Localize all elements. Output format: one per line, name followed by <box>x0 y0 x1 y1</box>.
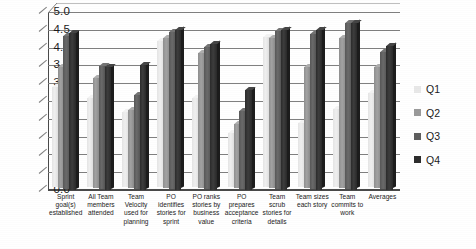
bar-face <box>69 33 76 190</box>
x-axis-label-line: Team <box>119 193 152 201</box>
x-axis-label-line: established <box>49 209 82 217</box>
legend-label: Q2 <box>426 108 440 119</box>
bar-side <box>76 30 79 188</box>
bar-q4 <box>175 30 182 190</box>
x-axis-label-line: PO ranks <box>190 193 223 201</box>
x-axis-label-line: Team sizes <box>296 193 329 201</box>
x-axis-label-line: Sprint <box>49 193 82 201</box>
bar-group <box>83 12 118 190</box>
x-axis-label-line: sprint <box>155 218 188 226</box>
bar-group <box>154 12 189 190</box>
x-axis-label-line: goal(s) <box>49 201 82 209</box>
x-axis-label-line: planning <box>119 218 152 226</box>
x-axis-label-line: acceptance <box>225 209 259 217</box>
bar-groups <box>48 12 400 190</box>
bar-face <box>281 30 288 190</box>
bar-face <box>386 46 393 190</box>
x-axis-label: TeamVelocityused forplanning <box>118 193 153 226</box>
x-axis-label: Averages <box>365 193 400 226</box>
bar-side <box>393 43 396 189</box>
bar-q4 <box>386 46 393 190</box>
bar-side <box>111 64 114 188</box>
bar-q4 <box>140 65 147 190</box>
x-axis-label-line: Team <box>331 193 364 201</box>
x-axis-label-line: criteria <box>225 218 259 226</box>
x-axis-label: POidentifiesstories forsprint <box>154 193 189 226</box>
x-axis-label-line: work <box>331 209 364 217</box>
bar-face <box>316 30 323 190</box>
legend-label: Q4 <box>426 155 440 166</box>
bar-cluster <box>298 12 324 190</box>
bar-q4 <box>105 67 112 190</box>
bar-group <box>365 12 400 190</box>
bar-side <box>287 27 290 189</box>
bar-cluster <box>228 12 254 190</box>
legend-item-q3[interactable]: Q3 <box>414 131 440 142</box>
bar-cluster <box>157 12 183 190</box>
x-axis-label: All Teammembersattended <box>83 193 118 226</box>
legend-item-q2[interactable]: Q2 <box>414 108 440 119</box>
bar-cluster <box>192 12 218 190</box>
x-axis-label: Sprintgoal(s)established <box>48 193 83 226</box>
x-axis-label-line: identifies <box>155 201 188 209</box>
gridline <box>48 190 400 191</box>
x-axis-labels: Sprintgoal(s)establishedAll Teammembersa… <box>48 193 400 226</box>
bar-group <box>118 12 153 190</box>
x-axis-label-line: PO prepares <box>225 193 259 209</box>
bar-q4 <box>210 44 217 190</box>
bar-q4 <box>351 23 358 190</box>
x-axis-label-line: used for <box>119 209 152 217</box>
x-axis-label-line: commits to <box>331 201 364 209</box>
bar-q4 <box>316 30 323 190</box>
legend-swatch-icon <box>414 133 421 140</box>
legend-label: Q1 <box>426 84 440 95</box>
bar-group <box>48 12 83 190</box>
bar-q4 <box>281 30 288 190</box>
x-axis-label: Team sizeseach story <box>295 193 330 226</box>
chart-depth-edge <box>48 3 400 12</box>
legend-swatch-icon <box>414 109 421 116</box>
bar-cluster <box>368 12 394 190</box>
bar-face <box>105 67 112 190</box>
bar-chart: 5.04.54.03.53.02.52.01.51.00.50.0 Sprint… <box>0 0 476 249</box>
x-axis-label-line: stories for <box>261 209 294 217</box>
bar-cluster <box>122 12 148 190</box>
x-axis-label-line: Team scrub <box>261 193 294 209</box>
x-axis-label-line: PO <box>155 193 188 201</box>
x-axis-label-line: business <box>190 209 223 217</box>
x-axis-label-line: each story <box>296 201 329 209</box>
legend-item-q4[interactable]: Q4 <box>414 155 440 166</box>
chart-legend: Q1Q2Q3Q4 <box>414 84 440 165</box>
legend-label: Q3 <box>426 131 440 142</box>
legend-item-q1[interactable]: Q1 <box>414 84 440 95</box>
bar-face <box>351 23 358 190</box>
bar-side <box>252 87 255 188</box>
bar-face <box>175 30 182 190</box>
x-axis-label-line: attended <box>84 209 117 217</box>
x-axis-label-line: All Team <box>84 193 117 201</box>
x-axis-label-line: members <box>84 201 117 209</box>
x-axis-label-line: details <box>261 218 294 226</box>
bar-side <box>357 19 360 188</box>
bar-side <box>322 27 325 189</box>
x-axis-label-line: stories for <box>155 209 188 217</box>
bar-face <box>140 65 147 190</box>
bar-side <box>146 62 149 188</box>
bar-cluster <box>52 12 78 190</box>
x-axis-label: Teamcommits towork <box>330 193 365 226</box>
bar-face <box>245 90 252 190</box>
bar-group <box>189 12 224 190</box>
bar-cluster <box>87 12 113 190</box>
x-axis-label-line: value <box>190 218 223 226</box>
x-axis-label: Team scrubstories fordetails <box>260 193 295 226</box>
bar-cluster <box>333 12 359 190</box>
bar-group <box>294 12 329 190</box>
bar-q4 <box>69 33 76 190</box>
plot-area <box>48 12 400 190</box>
bar-group <box>330 12 365 190</box>
bar-side <box>181 27 184 189</box>
x-axis-label: PO ranksstories bybusinessvalue <box>189 193 224 226</box>
bar-side <box>217 41 220 189</box>
x-axis-label-line: Velocity <box>119 201 152 209</box>
x-axis-label-line: stories by <box>190 201 223 209</box>
